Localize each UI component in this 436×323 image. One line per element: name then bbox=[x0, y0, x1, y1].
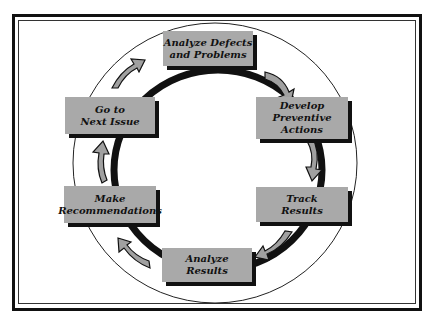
step-label: Analyze Defects bbox=[164, 37, 253, 49]
step-label: Make bbox=[58, 193, 162, 205]
step-label: Analyze bbox=[185, 253, 228, 265]
step-label: Recommendations bbox=[58, 205, 162, 217]
step-analyze-defects: Analyze Defectsand Problems bbox=[163, 31, 253, 66]
arrow-6-icon bbox=[112, 59, 145, 88]
step-label: Go to bbox=[80, 104, 139, 116]
step-label: Results bbox=[185, 265, 228, 277]
step-label: Develop bbox=[272, 100, 331, 112]
step-make-recommendations: MakeRecommendations bbox=[64, 186, 156, 223]
step-track-results: TrackResults bbox=[256, 187, 348, 222]
step-develop-actions: DevelopPreventiveActions bbox=[256, 97, 348, 139]
step-analyze-results: AnalyzeResults bbox=[162, 248, 252, 282]
step-next-issue: Go toNext Issue bbox=[65, 97, 155, 134]
cycle-arrows bbox=[93, 59, 322, 268]
arrow-5-icon bbox=[93, 141, 109, 183]
step-label: Next Issue bbox=[80, 116, 139, 128]
step-label: Results bbox=[281, 205, 323, 217]
step-label: Track bbox=[281, 193, 323, 205]
step-label: Actions bbox=[272, 124, 331, 136]
step-label: Preventive bbox=[272, 112, 331, 124]
step-label: and Problems bbox=[164, 49, 253, 61]
